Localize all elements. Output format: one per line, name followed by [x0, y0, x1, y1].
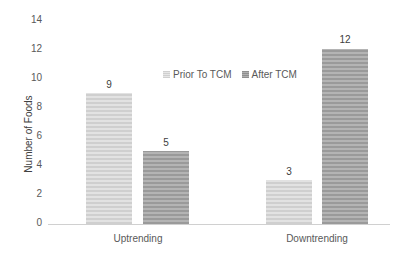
- legend-label-prior: Prior To TCM: [173, 69, 232, 80]
- y-tick-10: 10: [22, 73, 42, 83]
- legend-item-after: After TCM: [242, 69, 297, 80]
- y-tick-6: 6: [22, 131, 42, 141]
- data-label-downtrending-after: 12: [322, 34, 368, 45]
- legend-item-prior: Prior To TCM: [163, 69, 232, 80]
- bar-uptrending-prior: [86, 93, 132, 224]
- legend-label-after: After TCM: [252, 69, 297, 80]
- legend: Prior To TCM After TCM: [163, 69, 297, 80]
- bar-downtrending-after: [322, 49, 368, 224]
- x-category-downtrending: Downtrending: [247, 233, 387, 244]
- y-tick-2: 2: [22, 189, 42, 199]
- bar-chart: Number of Foods 14 12 10 8 6 4 2 0 9 5 3…: [0, 0, 394, 256]
- legend-swatch-after-icon: [242, 71, 249, 78]
- bar-downtrending-prior: [266, 180, 312, 224]
- data-label-uptrending-prior: 9: [86, 79, 132, 90]
- bar-uptrending-after: [143, 151, 189, 224]
- data-label-uptrending-after: 5: [143, 137, 189, 148]
- data-label-downtrending-prior: 3: [266, 166, 312, 177]
- y-tick-4: 4: [22, 160, 42, 170]
- y-tick-0: 0: [22, 218, 42, 228]
- legend-swatch-prior-icon: [163, 71, 170, 78]
- x-axis-line: [48, 224, 390, 225]
- y-tick-12: 12: [22, 44, 42, 54]
- x-category-uptrending: Uptrending: [68, 233, 208, 244]
- y-tick-14: 14: [22, 15, 42, 25]
- y-tick-8: 8: [22, 102, 42, 112]
